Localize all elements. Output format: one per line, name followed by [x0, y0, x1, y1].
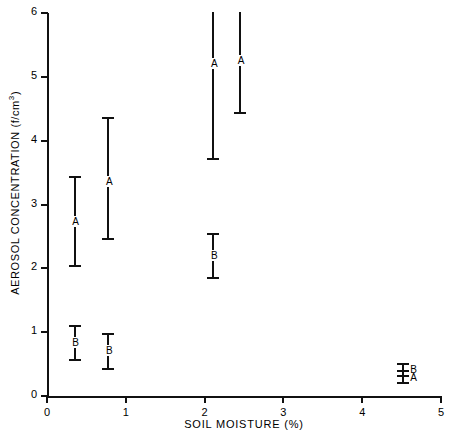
point-label-a: A — [235, 55, 247, 66]
y-tick-label-3: 3 — [31, 196, 37, 211]
x-tick-1: 1 — [125, 396, 127, 403]
y-axis-title-text: AEROSOL CONCENTRATION (f/cm — [9, 100, 21, 295]
point-label-b: B — [208, 250, 220, 261]
y-tick-6: 6 — [41, 12, 48, 14]
error-bar-cap-top — [397, 363, 409, 365]
y-tick-4: 4 — [41, 140, 48, 142]
point-label-a: A — [208, 58, 220, 69]
error-bar-b-b2: B — [102, 333, 114, 370]
point-label-a: A — [70, 216, 82, 227]
error-bar-a-a2: A — [102, 117, 114, 240]
y-tick-3: 3 — [41, 204, 48, 206]
x-tick-label-1: 1 — [115, 406, 137, 418]
plot-area: 0123456 012345 AABBAABBA — [47, 13, 441, 398]
x-tick-label-0: 0 — [36, 406, 58, 418]
error-bar-cap-top — [69, 176, 81, 178]
error-bar-cap-top — [397, 370, 409, 372]
error-bar-cap-bottom — [207, 158, 219, 160]
x-tick-0: 0 — [46, 396, 48, 403]
chart-figure: AEROSOL CONCENTRATION (f/cm3) 0123456 01… — [0, 0, 461, 439]
error-bar-cap-top — [69, 325, 81, 327]
x-axis-title: SOIL MOISTURE (%) — [47, 418, 441, 430]
y-tick-label-1: 1 — [31, 323, 37, 338]
point-label-b: B — [103, 345, 115, 356]
error-bar-cap-bottom — [397, 382, 409, 384]
y-tick-5: 5 — [41, 76, 48, 78]
error-bar-cap-bottom — [207, 277, 219, 279]
point-label-a: A — [410, 372, 422, 383]
error-bar-cap-bottom — [69, 359, 81, 361]
y-tick-1: 1 — [41, 331, 48, 333]
y-tick-label-0: 0 — [31, 387, 37, 402]
y-axis-line — [47, 13, 49, 398]
error-bar-cap-top — [207, 233, 219, 235]
x-tick-3: 3 — [282, 396, 284, 403]
y-axis-title: AEROSOL CONCENTRATION (f/cm3) — [4, 0, 24, 385]
error-bar-a-a4: A — [234, 12, 246, 114]
point-label-b: B — [70, 337, 82, 348]
x-tick-label-2: 2 — [194, 406, 216, 418]
error-bar-b-b1: B — [69, 325, 81, 361]
y-tick-label-2: 2 — [31, 259, 37, 274]
x-tick-label-3: 3 — [272, 406, 294, 418]
error-bar-stem — [212, 12, 214, 160]
y-tick-label-5: 5 — [31, 68, 37, 83]
error-bar-a-a3: A — [207, 12, 219, 160]
error-bar-a-a5: A — [397, 370, 409, 384]
y-axis-title-exponent: 3 — [7, 95, 16, 100]
x-tick-5: 5 — [440, 396, 442, 403]
y-tick-label-4: 4 — [31, 132, 37, 147]
error-bar-cap-bottom — [69, 265, 81, 267]
error-bar-b-b3: B — [207, 233, 219, 279]
x-tick-4: 4 — [361, 396, 363, 403]
error-bar-cap-bottom — [234, 112, 246, 114]
error-bar-cap-bottom — [102, 238, 114, 240]
y-tick-2: 2 — [41, 267, 48, 269]
x-axis-line — [47, 396, 441, 398]
y-axis-title-paren: ) — [9, 91, 21, 95]
x-tick-label-5: 5 — [430, 406, 452, 418]
x-tick-label-4: 4 — [351, 406, 373, 418]
error-bar-a-a1: A — [69, 176, 81, 267]
x-tick-2: 2 — [204, 396, 206, 403]
point-label-a: A — [103, 176, 115, 187]
y-tick-label-6: 6 — [31, 4, 37, 19]
error-bar-cap-bottom — [102, 368, 114, 370]
error-bar-cap-top — [102, 333, 114, 335]
error-bar-cap-top — [102, 117, 114, 119]
